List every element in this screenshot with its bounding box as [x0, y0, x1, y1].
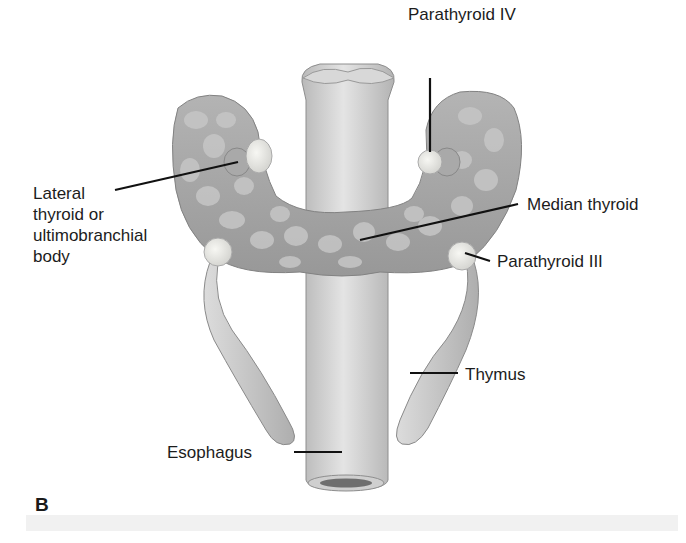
label-median-thyroid: Median thyroid: [527, 194, 639, 215]
panel-label: B: [35, 494, 49, 516]
label-thymus: Thymus: [465, 364, 525, 385]
esophagus: [302, 64, 394, 491]
label-parathyroid-iv: Parathyroid IV: [408, 4, 516, 25]
caption-strip: [26, 515, 678, 531]
label-parathyroid-iii: Parathyroid III: [497, 251, 603, 272]
label-esophagus: Esophagus: [167, 442, 252, 463]
label-lateral-thyroid: Lateral thyroid or ultimobranchial body: [33, 183, 147, 267]
